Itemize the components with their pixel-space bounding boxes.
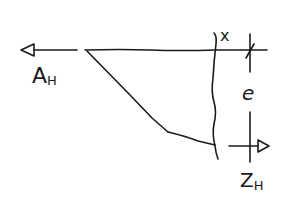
bottom-member [168, 132, 215, 145]
dimension-label: e [242, 81, 254, 105]
cut-line [212, 33, 218, 159]
right-force-label: ZH [240, 168, 263, 193]
left-force-label: AH [32, 63, 57, 88]
diagram-canvas: AH x e ZH [0, 0, 299, 204]
right-force-arrow [229, 140, 269, 152]
cut-label: x [220, 26, 229, 45]
diagonal-member [87, 51, 168, 132]
hollow-arrowhead-right-icon [258, 140, 269, 152]
hollow-arrowhead-left-icon [21, 44, 34, 56]
left-force-arrow [21, 44, 77, 56]
top-horizontal-member [85, 50, 267, 51]
